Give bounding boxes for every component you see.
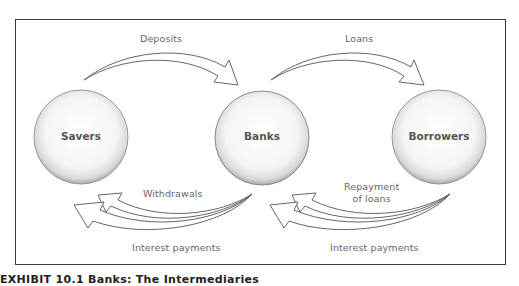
loans-arrow — [271, 53, 424, 85]
figure-caption: EXHIBIT 10.1 Banks: The Intermediaries — [0, 273, 259, 286]
interest-payments-right-label: Interest payments — [330, 242, 419, 253]
repayment-label-line2: of loans — [344, 193, 399, 205]
deposits-label: Deposits — [140, 33, 182, 44]
borrowers-label: Borrowers — [408, 130, 469, 142]
withdrawals-label: Withdrawals — [143, 188, 203, 199]
banks-label: Banks — [244, 130, 280, 142]
loans-label: Loans — [345, 33, 373, 44]
deposits-arrow — [84, 53, 238, 85]
savers-label: Savers — [61, 130, 101, 142]
repayment-label-line1: Repayment — [344, 181, 399, 193]
interest-payments-left-label: Interest payments — [132, 242, 221, 253]
repayment-label: Repayment of loans — [344, 181, 399, 205]
